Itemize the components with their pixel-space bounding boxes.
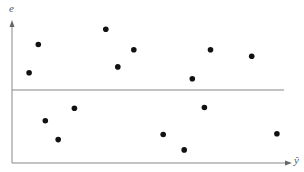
data-point [115, 64, 121, 70]
data-point [43, 118, 49, 124]
data-point [36, 42, 42, 48]
data-point [208, 47, 214, 53]
data-point [202, 105, 208, 111]
data-point [160, 132, 166, 138]
data-point [26, 70, 32, 76]
data-point [72, 106, 78, 112]
axes [10, 20, 293, 166]
residual-plot [0, 0, 304, 172]
data-point [190, 76, 196, 82]
x-axis-label: ŷ [294, 154, 299, 166]
data-point [249, 54, 255, 60]
x-axis-arrow-icon [285, 161, 292, 166]
data-point [55, 137, 61, 143]
y-axis-arrow-icon [10, 20, 15, 27]
data-point [181, 147, 187, 153]
data-point [103, 27, 109, 33]
data-point [274, 131, 280, 137]
y-axis-label: e [9, 2, 14, 14]
data-point [131, 47, 137, 53]
